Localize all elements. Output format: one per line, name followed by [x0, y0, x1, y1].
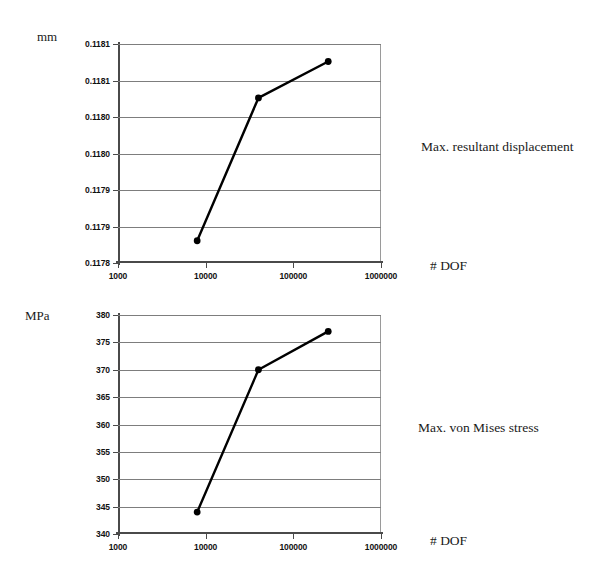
- y-axis-unit-label-mpa: MPa: [25, 308, 50, 324]
- y-tick-label: 375: [96, 337, 110, 347]
- y-axis-unit-label-mm: mm: [37, 29, 57, 45]
- y-tick-label: 340: [96, 529, 110, 539]
- data-point-marker: [325, 58, 332, 65]
- data-point-marker: [255, 95, 262, 102]
- data-point-marker: [194, 509, 201, 516]
- y-tick-label: 350: [96, 474, 110, 484]
- x-tick-mark: [118, 263, 119, 268]
- chart-max-von-mises-stress: MPa Max. von Mises stress # DOF 380 375 …: [0, 293, 598, 586]
- chart-caption-displacement: Max. resultant displacement: [421, 139, 574, 155]
- plot-area-displacement: 0.1181 0.1181 0.1180 0.1180 0.1179 0.117…: [118, 44, 381, 263]
- y-tick-label: 360: [96, 420, 110, 430]
- x-axis-title-dof: # DOF: [430, 258, 467, 274]
- x-tick-mark: [293, 263, 294, 268]
- x-tick-mark: [206, 534, 207, 539]
- x-tick-label: 100000: [279, 542, 307, 552]
- y-tick-label: 0.1179: [85, 185, 110, 195]
- y-tick-label: 370: [96, 365, 110, 375]
- data-point-marker: [325, 328, 332, 335]
- x-tick-mark: [118, 534, 119, 539]
- x-axis-title-dof: # DOF: [430, 533, 467, 549]
- x-tick-mark: [293, 534, 294, 539]
- x-tick-label: 1000000: [365, 271, 397, 281]
- x-tick-mark: [381, 534, 382, 539]
- y-tick-label: 0.1180: [85, 149, 110, 159]
- x-tick-label: 1000: [109, 542, 128, 552]
- x-tick-label: 10000: [194, 271, 217, 281]
- series-line: [197, 62, 328, 241]
- x-tick-mark: [206, 263, 207, 268]
- x-tick-label: 100000: [279, 271, 307, 281]
- y-tick-label: 365: [96, 392, 110, 402]
- x-tick-label: 10000: [194, 542, 217, 552]
- plot-area-stress: 380 375 370 365 360 355 350 345 340: [118, 315, 381, 534]
- y-tick-label: 0.1179: [85, 222, 110, 232]
- y-tick-label: 0.1181: [85, 39, 110, 49]
- y-tick-label: 345: [96, 502, 110, 512]
- data-point-marker: [194, 237, 201, 244]
- figure-two-convergence-charts: mm Max. resultant displacement # DOF 0.1…: [0, 0, 598, 586]
- x-tick-mark: [381, 263, 382, 268]
- y-tick-label: 0.1181: [85, 76, 110, 86]
- data-series-stress: [118, 315, 381, 534]
- data-series-displacement: [118, 44, 381, 263]
- chart-caption-stress: Max. von Mises stress: [418, 420, 539, 436]
- y-tick-label: 355: [96, 447, 110, 457]
- series-line: [197, 331, 328, 512]
- y-tick-label: 380: [96, 310, 110, 320]
- x-tick-label: 1000: [109, 271, 128, 281]
- data-point-marker: [255, 366, 262, 373]
- x-tick-label: 1000000: [365, 542, 397, 552]
- y-tick-label: 0.1180: [85, 112, 110, 122]
- y-tick-label: 0.1178: [85, 258, 110, 268]
- chart-max-resultant-displacement: mm Max. resultant displacement # DOF 0.1…: [0, 0, 598, 293]
